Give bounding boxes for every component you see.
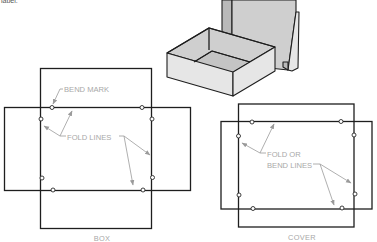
fold-lines-leader — [119, 136, 150, 155]
bend-mark-circle — [40, 176, 44, 180]
cover-caption: COVER — [288, 233, 316, 242]
fold-lines-leader — [44, 126, 60, 136]
bend-mark-circle — [237, 134, 241, 138]
cropped-caption-fragment: label: — [1, 0, 18, 4]
fold-or-label: FOLD OR — [267, 150, 301, 159]
bend-mark-circle — [39, 117, 43, 121]
box-pattern: BEND MARK FOLD LINES BOX — [5, 69, 191, 242]
fold-lines-label: FOLD LINES — [67, 133, 111, 142]
bend-mark-circle — [251, 207, 255, 211]
bend-lines-label: BEND LINES — [267, 161, 312, 170]
box-bend-marks — [39, 106, 155, 193]
fold-lines-leader — [124, 136, 133, 185]
open-box-illustration — [167, 0, 299, 96]
bend-mark-circle — [51, 188, 55, 192]
bend-mark-circle — [140, 106, 144, 110]
bend-mark-label: BEND MARK — [64, 85, 109, 94]
bend-mark-leader — [53, 89, 63, 104]
bend-mark-circle — [340, 206, 344, 210]
box-horizontal-panel — [5, 108, 191, 191]
fold-or-bend-leader — [313, 164, 351, 183]
bend-mark-circle — [151, 176, 155, 180]
bend-mark-circle — [353, 192, 357, 196]
bend-mark-circle — [250, 120, 254, 124]
cover-pattern: FOLD OR BEND LINES COVER — [221, 104, 372, 242]
box-caption: BOX — [94, 234, 111, 242]
bend-mark-circle — [150, 117, 154, 121]
bend-mark-circle — [352, 133, 356, 137]
fold-or-bend-leader — [320, 164, 334, 205]
bend-mark-circle — [237, 193, 241, 197]
box-and-cover-diagram: label: — [0, 0, 377, 242]
fold-or-bend-leader — [242, 143, 260, 153]
fold-or-bend-leader — [260, 124, 274, 153]
bend-mark-circle — [339, 120, 343, 124]
bend-mark-circle — [50, 106, 54, 110]
bend-mark-circle — [141, 188, 145, 192]
